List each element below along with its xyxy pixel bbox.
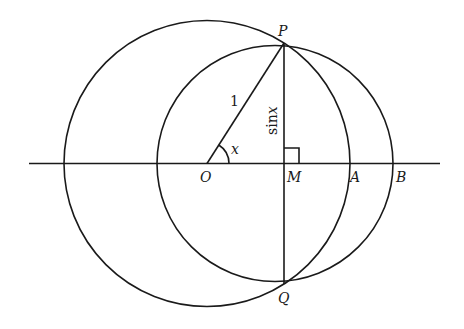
label-sin-var: x	[264, 106, 280, 114]
label-a: A	[348, 169, 360, 185]
label-q: Q	[278, 290, 290, 306]
label-m: M	[286, 169, 302, 185]
right-angle-marker	[284, 148, 299, 164]
label-sin: sin	[264, 114, 280, 135]
label-radius-one: 1	[230, 93, 239, 109]
label-sinx: sinx	[264, 106, 280, 135]
label-p: P	[277, 23, 288, 39]
angle-arc	[219, 145, 229, 164]
svg-text:sinx: sinx	[264, 106, 280, 135]
geometry-diagram: P Q O M A B 1 x sinx	[0, 0, 464, 329]
label-o: O	[200, 169, 212, 185]
label-angle-x: x	[231, 141, 239, 157]
label-b: B	[395, 169, 406, 185]
